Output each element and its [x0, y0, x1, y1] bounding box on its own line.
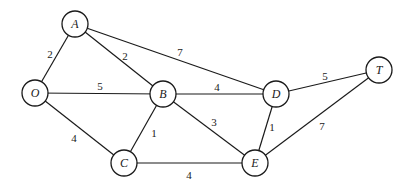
node-o: O — [22, 80, 48, 106]
edge-weight-d-t: 5 — [322, 70, 328, 82]
node-c: C — [111, 150, 137, 176]
node-b: B — [150, 81, 176, 107]
edge-weight-a-d: 7 — [177, 46, 183, 58]
edge-o-b — [35, 93, 163, 94]
edge-weight-o-c: 4 — [71, 132, 77, 144]
edge-weight-c-e: 4 — [186, 169, 192, 181]
edge-a-d — [75, 24, 276, 94]
edges-layer — [35, 24, 379, 163]
node-label: A — [70, 17, 79, 31]
edge-weight-b-c: 1 — [151, 127, 157, 139]
node-label: D — [271, 87, 281, 101]
node-d: D — [263, 81, 289, 107]
edge-weight-o-a: 2 — [47, 48, 53, 60]
edge-weight-a-b: 2 — [122, 50, 128, 62]
node-label: O — [31, 86, 40, 100]
edge-o-c — [35, 93, 124, 163]
node-e: E — [242, 150, 268, 176]
node-label: E — [250, 156, 259, 170]
edge-weight-b-d: 4 — [214, 81, 220, 93]
node-t: T — [366, 57, 392, 83]
edge-weight-e-t: 7 — [319, 120, 325, 132]
edge-weights-layer: 254271434157 — [47, 46, 328, 181]
node-a: A — [62, 11, 88, 37]
node-label: B — [159, 87, 167, 101]
edge-a-b — [75, 24, 163, 94]
edge-weight-d-e: 1 — [269, 121, 275, 133]
edge-weight-b-e: 3 — [211, 116, 217, 128]
node-label: C — [120, 156, 129, 170]
edge-b-e — [163, 94, 255, 163]
edge-weight-o-b: 5 — [97, 80, 103, 92]
graph-diagram: 254271434157 OABCDET — [0, 0, 413, 192]
